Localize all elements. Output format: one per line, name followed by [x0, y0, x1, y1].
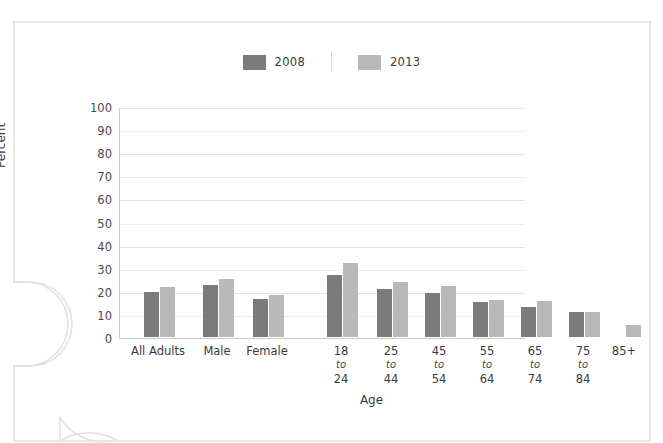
x-axis-title-text: Age [360, 393, 383, 407]
y-axis-tick-0: 0 [52, 332, 112, 346]
chart-legend: 2008 2013 [0, 52, 663, 72]
y-axis-tick-20: 20 [52, 286, 112, 300]
bar-group [203, 108, 234, 337]
bar-group [569, 108, 600, 337]
bar-chart-figure: 2008 2013 Percent 1009080706050403020100… [0, 0, 663, 443]
bar-2013-75-to-84[interactable] [585, 312, 600, 337]
bar-group [144, 108, 175, 337]
bar-2008-75-to-84[interactable] [569, 312, 584, 337]
bar-2013-65-to-74[interactable] [537, 301, 552, 337]
legend-label-2013: 2013 [390, 55, 420, 69]
legend-swatch-2013 [358, 55, 381, 70]
legend-label-2008: 2008 [275, 55, 305, 69]
bar-group [425, 108, 456, 337]
bar-2008-25-to-44[interactable] [377, 289, 392, 338]
y-axis-tick-80: 80 [52, 147, 112, 161]
y-axis-tick-70: 70 [52, 170, 112, 184]
y-axis-tick-100: 100 [52, 101, 112, 115]
y-axis-tick-60: 60 [52, 193, 112, 207]
bar-2008-55-to-64[interactable] [473, 302, 488, 337]
y-axis-tick-50: 50 [52, 217, 112, 231]
bar-group [521, 108, 552, 337]
bar-2008-18-to-24[interactable] [327, 275, 342, 337]
legend-divider [331, 52, 332, 72]
bar-2008-Female[interactable] [253, 299, 268, 337]
bar-2008-45-to-54[interactable] [425, 293, 440, 337]
legend-swatch-2008 [243, 55, 266, 70]
bar-2013-18-to-24[interactable] [343, 263, 358, 337]
bar-2013-Female[interactable] [269, 295, 284, 337]
plot-area [119, 108, 525, 339]
y-axis-tick-90: 90 [52, 124, 112, 138]
y-axis-tick-30: 30 [52, 263, 112, 277]
bar-group [377, 108, 408, 337]
x-tick-label-Female: Female [227, 344, 307, 358]
y-axis-title: Percent [0, 123, 8, 168]
bar-2013-55-to-64[interactable] [489, 300, 504, 337]
x-axis-title: Age [0, 393, 663, 407]
bar-2013-85+[interactable] [626, 325, 641, 337]
bar-group [473, 108, 504, 337]
bar-2013-Male[interactable] [219, 279, 234, 337]
bar-group [253, 108, 284, 337]
legend-entry-2013[interactable]: 2013 [358, 55, 420, 70]
x-axis-tick-labels: All AdultsMaleFemale18to2425to4445to5455… [119, 344, 525, 392]
y-axis-tick-10: 10 [52, 309, 112, 323]
y-axis-tick-40: 40 [52, 240, 112, 254]
bar-2013-All-Adults[interactable] [160, 287, 175, 337]
bar-2013-45-to-54[interactable] [441, 286, 456, 337]
bar-2008-All-Adults[interactable] [144, 292, 159, 337]
bar-2008-Male[interactable] [203, 285, 218, 337]
bar-2013-25-to-44[interactable] [393, 282, 408, 337]
bar-series-container [121, 108, 525, 337]
bar-group [327, 108, 358, 337]
bar-group [610, 108, 641, 337]
legend-entry-2008[interactable]: 2008 [243, 55, 305, 70]
bar-2008-65-to-74[interactable] [521, 307, 536, 337]
x-tick-label-85+: 85+ [584, 344, 663, 358]
